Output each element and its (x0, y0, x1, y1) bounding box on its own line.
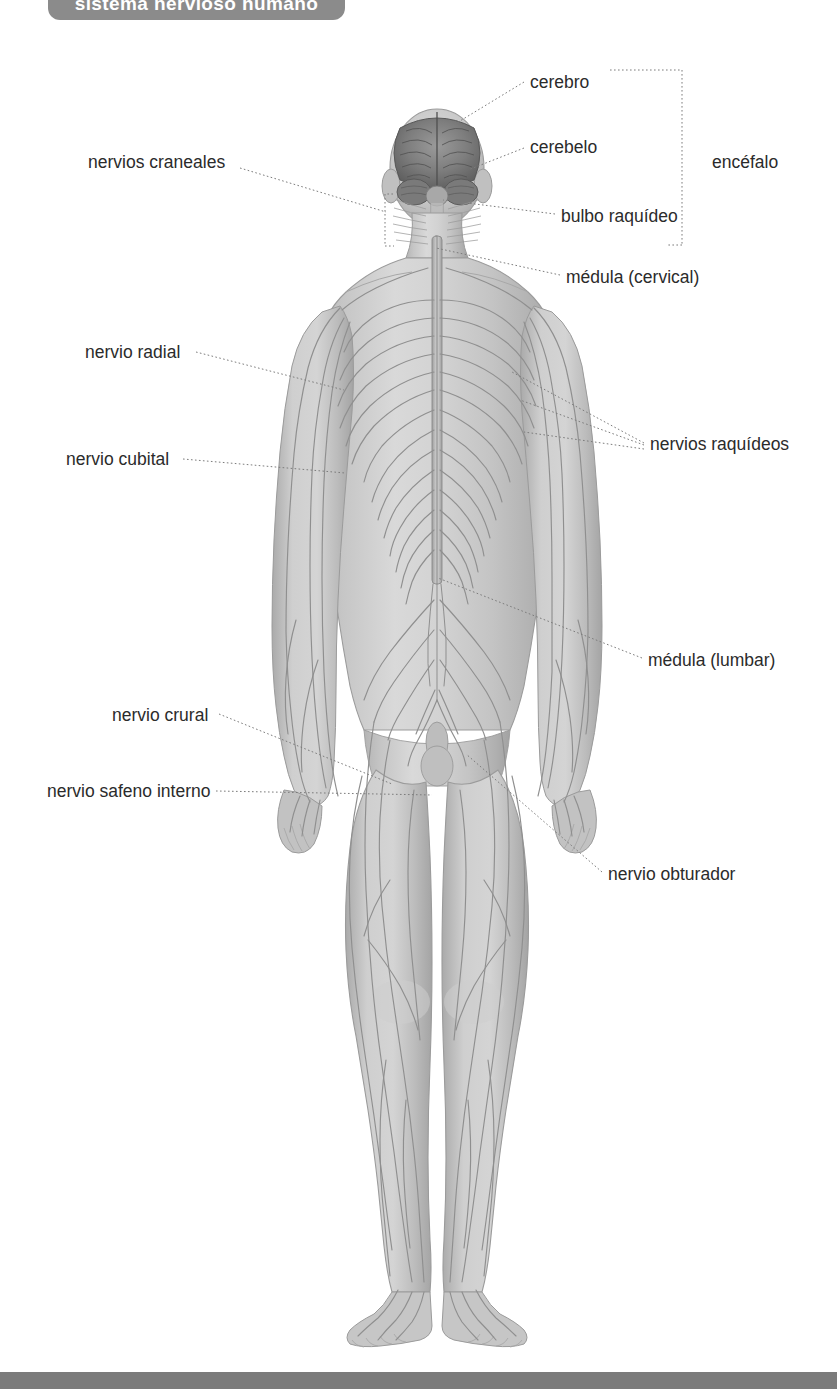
label-nervio-safeno-interno: nervio safeno interno (47, 783, 210, 801)
label-encefalo: encéfalo (712, 154, 778, 172)
label-nervio-crural: nervio crural (112, 707, 208, 725)
label-nervios-craneales: nervios craneales (88, 154, 225, 172)
label-medula-cervical: médula (cervical) (566, 269, 699, 287)
label-nervio-radial: nervio radial (85, 344, 180, 362)
label-nervio-cubital: nervio cubital (66, 451, 169, 469)
diagram-page: cerebro cerebelo bulbo raquídeo médula (… (0, 0, 837, 1389)
page-title: sistema nervioso humano (75, 0, 319, 15)
leader-cerebro (455, 82, 524, 124)
leader-nervios-craneales (240, 168, 386, 212)
label-cerebelo: cerebelo (530, 139, 597, 157)
label-medula-lumbar: médula (lumbar) (648, 652, 775, 670)
title-banner: sistema nervioso humano (48, 0, 345, 20)
footer-bar (0, 1372, 837, 1389)
label-cerebro: cerebro (530, 74, 589, 92)
label-bulbo-raquideo: bulbo raquídeo (561, 208, 678, 226)
label-nervios-raquideos: nervios raquídeos (650, 436, 789, 454)
label-nervio-obturador: nervio obturador (608, 866, 735, 884)
human-body-figure (0, 0, 837, 1389)
